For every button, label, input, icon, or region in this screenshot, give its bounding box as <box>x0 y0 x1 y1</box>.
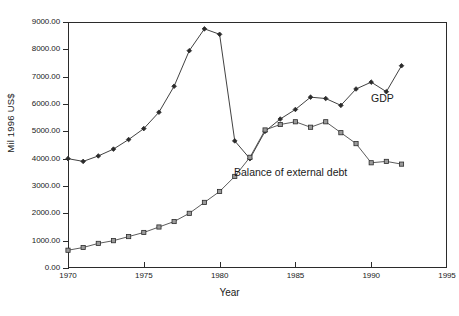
y-tick-mark <box>63 186 69 187</box>
y-tick-mark <box>63 131 69 132</box>
y-tick-label: 8000.00 <box>14 45 60 53</box>
y-tick-label: 2000.00 <box>14 209 60 217</box>
series-label-balance-of-external-debt: Balance of external debt <box>234 166 347 178</box>
y-tick-mark <box>63 77 69 78</box>
y-tick-label: 1000.00 <box>14 237 60 245</box>
y-tick-label: 3000.00 <box>14 182 60 190</box>
x-tick-mark <box>295 262 296 268</box>
y-tick-mark <box>63 213 69 214</box>
series-label-gdp: GDP <box>371 92 394 104</box>
x-tick-mark <box>220 262 221 268</box>
chart-container: Mil 1996 US$ 0.001000.002000.003000.0040… <box>0 0 459 316</box>
x-tick-label: 1970 <box>48 271 88 280</box>
y-tick-label: 6000.00 <box>14 100 60 108</box>
y-tick-mark <box>63 268 69 269</box>
y-tick-mark <box>63 49 69 50</box>
x-tick-mark <box>371 262 372 268</box>
y-tick-mark <box>63 159 69 160</box>
x-tick-label: 1990 <box>351 271 391 280</box>
y-tick-mark <box>63 22 69 23</box>
y-tick-mark <box>63 241 69 242</box>
y-tick-label: 7000.00 <box>14 73 60 81</box>
y-tick-label: 4000.00 <box>14 155 60 163</box>
x-tick-label: 1985 <box>275 271 315 280</box>
x-tick-label: 1980 <box>200 271 240 280</box>
y-tick-mark <box>63 104 69 105</box>
x-tick-label: 1975 <box>124 271 164 280</box>
plot-area-frame <box>68 22 447 268</box>
x-tick-label: 1995 <box>427 271 459 280</box>
x-tick-mark <box>144 262 145 268</box>
y-tick-label: 9000.00 <box>14 18 60 26</box>
y-tick-label: 5000.00 <box>14 127 60 135</box>
x-axis-title: Year <box>0 287 459 298</box>
